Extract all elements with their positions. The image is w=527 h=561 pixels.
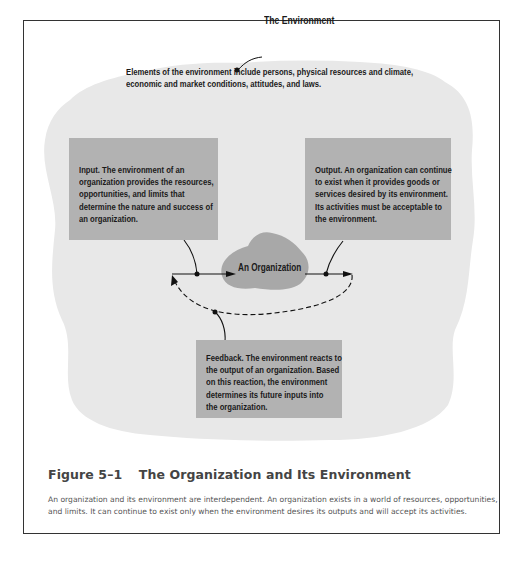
feedback-box-line: Feedback. The environment reacts to	[206, 352, 342, 364]
output-box-text: Output. An organization can continue to …	[315, 164, 452, 225]
figure-number: Figure 5–1	[48, 467, 122, 482]
output-box-line: services desired by its environment.	[315, 188, 452, 200]
input-box-line: an organization.	[79, 213, 214, 225]
input-box-line: Input. The environment of an	[79, 164, 214, 176]
environment-label: The Environment	[264, 14, 334, 26]
input-box-line: determine the nature and success of	[79, 201, 214, 213]
input-box-line: opportunities, and limits that	[79, 188, 214, 200]
figure-caption: An organization and its environment are …	[48, 494, 498, 518]
feedback-box-line: the output of an organization. Based	[206, 364, 342, 376]
feedback-box: Feedback. The environment reacts to the …	[196, 340, 342, 418]
input-connector-dot	[195, 272, 200, 277]
environment-description-line: Elements of the environment include pers…	[126, 66, 413, 78]
feedback-box-text: Feedback. The environment reacts to the …	[206, 352, 342, 413]
output-connector-dot	[324, 272, 329, 277]
output-box-line: Its activities must be acceptable to	[315, 201, 452, 213]
output-box-line: to exist when it provides goods or	[315, 176, 452, 188]
environment-description-line: economic and market conditions, attitude…	[126, 78, 413, 90]
feedback-box-line: on this reaction, the environment	[206, 376, 342, 388]
figure-title: Figure 5–1 The Organization and Its Envi…	[48, 467, 411, 482]
input-box-line: organization provides the resources,	[79, 176, 214, 188]
organization-label: An Organization	[238, 262, 301, 273]
feedback-box-line: determines its future inputs into	[206, 389, 342, 401]
figure-title-text: The Organization and Its Environment	[139, 467, 411, 482]
feedback-box-line: the organization.	[206, 401, 342, 413]
output-box-line: Output. An organization can continue	[315, 164, 452, 176]
feedback-connector-dot	[213, 310, 218, 315]
input-box-text: Input. The environment of an organizatio…	[79, 164, 214, 225]
figure-caption-line: and limits. It can continue to exist onl…	[48, 506, 498, 518]
environment-description: Elements of the environment include pers…	[126, 66, 413, 90]
figure-caption-line: An organization and its environment are …	[48, 494, 498, 506]
output-box-line: the environment.	[315, 213, 452, 225]
input-box: Input. The environment of an organizatio…	[69, 138, 218, 240]
output-box: Output. An organization can continue to …	[305, 138, 451, 240]
